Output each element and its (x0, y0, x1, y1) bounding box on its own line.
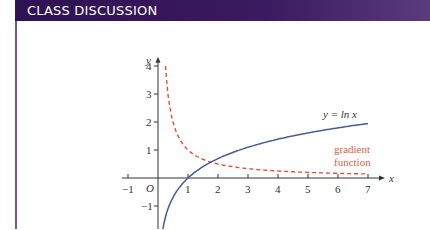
y-tick-label: 3 (146, 88, 152, 100)
gradient-label-line1: gradient (334, 143, 370, 155)
x-tick-label: 5 (305, 183, 311, 195)
y-tick-label: 1 (146, 144, 152, 156)
x-tick-label: 4 (275, 183, 281, 195)
ln-curve-label: y = ln x (322, 108, 357, 120)
y-tick-label: 2 (146, 116, 152, 128)
y-tick-label: 4 (146, 60, 152, 72)
graph-ln-and-gradient: xyO−11234567−11234 y = ln x gradient fun… (0, 0, 430, 229)
x-tick-label: 3 (245, 183, 251, 195)
x-axis-label: x (388, 172, 394, 184)
x-tick-label: −1 (122, 183, 134, 195)
x-tick-label: 2 (215, 183, 221, 195)
origin-label: O (146, 182, 154, 194)
x-axis-arrow-icon (379, 176, 385, 181)
y-tick-label: −1 (141, 200, 153, 212)
axes: xyO−11234567−11234 (122, 54, 394, 229)
x-tick-label: 6 (335, 183, 341, 195)
y-axis-arrow-icon (156, 57, 161, 63)
ln-x-curve (163, 124, 368, 230)
x-tick-label: 7 (365, 183, 371, 195)
gradient-label-line2: function (334, 156, 371, 168)
x-tick-label: 1 (185, 183, 191, 195)
